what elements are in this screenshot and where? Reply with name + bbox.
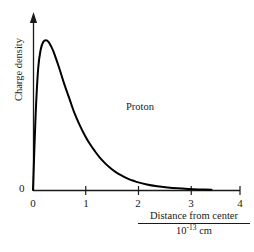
x-tick-label-2: 2 xyxy=(130,197,146,209)
x-axis-label-denominator: 10-13 cm xyxy=(138,224,250,237)
annotation-proton: Proton xyxy=(126,101,154,112)
y-axis-label: Charge density xyxy=(13,22,24,118)
x-tick-label-0: 0 xyxy=(25,197,41,209)
y-axis-arrow-icon xyxy=(30,12,37,23)
x-axis-label: Distance from center 10-13 cm xyxy=(138,210,250,237)
x-tick-label-4: 4 xyxy=(232,197,248,209)
data-curve-proton xyxy=(33,40,212,190)
x-tick-label-3: 3 xyxy=(183,197,199,209)
x-axis-label-exponent: -13 xyxy=(187,222,197,231)
y-tick-label-0: 0 xyxy=(19,182,25,194)
chart-figure: Charge density 0 0 1 2 3 4 Proton Distan… xyxy=(0,0,254,252)
x-axis-label-unit: cm xyxy=(197,225,212,236)
x-axis-label-mantissa: 10 xyxy=(176,225,187,236)
x-tick-label-1: 1 xyxy=(78,197,94,209)
